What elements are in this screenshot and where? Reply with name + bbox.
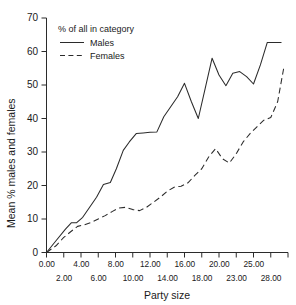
chart-container: Mean % males and females 010203040506070… <box>0 0 296 305</box>
y-axis-title: Mean % males and females <box>5 98 17 228</box>
y-tick-label-group: 010203040506070 <box>27 12 39 258</box>
x-tick-label-group-bottom: 2.006.0010.0014.0018.0023.0028.00 <box>56 273 282 283</box>
series-line-males <box>47 42 282 252</box>
legend-label-females: Females <box>90 51 125 61</box>
x-tick-label-group-top: 0.004.008.0012.0016.0020.0025.00 <box>39 259 265 269</box>
y-tick-label: 50 <box>27 79 39 90</box>
y-tick-label: 40 <box>27 113 39 124</box>
x-tick-label: 20.00 <box>209 259 230 269</box>
y-tick-label: 20 <box>27 180 39 191</box>
y-tick-label: 70 <box>27 12 39 23</box>
x-tick-label: 8.00 <box>108 259 125 269</box>
series-line-females <box>47 68 284 252</box>
x-tick-label: 2.00 <box>56 273 73 283</box>
x-tick-label: 25.00 <box>243 259 264 269</box>
x-tick-label: 6.00 <box>91 273 108 283</box>
y-tick-group <box>42 18 47 253</box>
x-tick-label: 0.00 <box>39 259 56 269</box>
x-tick-label: 23.00 <box>226 273 247 283</box>
x-tick-label: 12.00 <box>140 259 161 269</box>
x-tick-label: 28.00 <box>261 273 282 283</box>
x-axis-title: Party size <box>144 289 190 301</box>
y-tick-label: 30 <box>27 146 39 157</box>
x-tick-label: 18.00 <box>192 273 213 283</box>
x-tick-label: 14.00 <box>157 273 178 283</box>
x-tick-label: 16.00 <box>174 259 195 269</box>
x-tick-label: 10.00 <box>123 273 144 283</box>
line-chart: Mean % males and females 010203040506070… <box>0 0 296 305</box>
legend-label-males: Males <box>90 38 115 48</box>
y-tick-label: 0 <box>32 247 38 258</box>
legend: % of all in category Males Females <box>58 24 135 61</box>
y-tick-label: 10 <box>27 213 39 224</box>
legend-title: % of all in category <box>58 24 135 34</box>
x-tick-label: 4.00 <box>73 259 90 269</box>
y-tick-label: 60 <box>27 46 39 57</box>
x-tick-group <box>47 253 289 258</box>
